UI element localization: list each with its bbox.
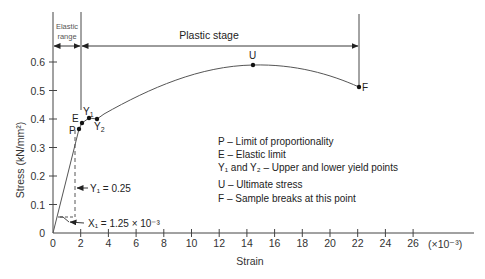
svg-text:6: 6 — [133, 237, 139, 249]
x-tick-labels: 0 2 4 6 8 10 12 14 16 18 20 22 24 26 — [50, 237, 419, 249]
legend: P – Limit of proportionality E – Elastic… — [218, 136, 398, 204]
legend-item-e: E – Elastic limit — [218, 149, 286, 160]
point-f — [357, 85, 361, 89]
label-p: P — [69, 125, 76, 136]
x1-bracket — [58, 217, 69, 222]
svg-text:10: 10 — [186, 237, 198, 249]
x-unit-label: (×10⁻³) — [428, 238, 462, 250]
plastic-stage-label: Plastic stage — [179, 29, 239, 41]
legend-item-p: P – Limit of proportionality — [218, 136, 333, 147]
svg-text:22: 22 — [352, 237, 364, 249]
svg-text:0.1: 0.1 — [30, 199, 45, 211]
svg-text:2: 2 — [78, 237, 84, 249]
svg-text:20: 20 — [324, 237, 336, 249]
label-u: U — [249, 50, 256, 61]
svg-text:18: 18 — [296, 237, 308, 249]
svg-text:0.4: 0.4 — [30, 113, 45, 125]
svg-text:0: 0 — [50, 237, 56, 249]
stress-strain-curve — [53, 65, 359, 233]
stress-strain-chart: 0 0.1 0.2 0.3 0.4 0.5 0.6 0 2 4 6 8 10 1… — [0, 0, 485, 279]
y1-annotation: Y₁ = 0.25 — [90, 183, 131, 194]
x1-annotation-arrow — [70, 222, 84, 223]
svg-text:0.2: 0.2 — [30, 170, 45, 182]
x-axis-title: Strain — [236, 255, 264, 267]
svg-text:4: 4 — [105, 237, 111, 249]
svg-text:0.3: 0.3 — [30, 142, 45, 154]
svg-text:14: 14 — [241, 237, 253, 249]
svg-text:0.6: 0.6 — [30, 56, 45, 68]
svg-text:12: 12 — [213, 237, 225, 249]
legend-item-u: U – Ultimate stress — [218, 179, 302, 190]
legend-item-f: F – Sample breaks at this point — [218, 193, 356, 204]
x1-annotation: X₁ = 1.25 × 10⁻³ — [88, 218, 160, 229]
legend-item-y: Y₁ and Y₂ – Upper and lower yield points — [218, 162, 398, 173]
label-y1: Y1 — [83, 106, 94, 118]
svg-text:0.5: 0.5 — [30, 85, 45, 97]
label-f: F — [362, 82, 368, 93]
elastic-range-label-2: range — [57, 32, 76, 41]
point-u — [251, 63, 255, 67]
y-axis-title: Stress (kN/mm²) — [14, 122, 26, 198]
svg-text:16: 16 — [269, 237, 281, 249]
svg-text:0: 0 — [39, 227, 45, 239]
svg-text:8: 8 — [161, 237, 167, 249]
label-e: E — [72, 113, 79, 124]
elastic-range-label-1: Elastic — [56, 22, 78, 31]
y-tick-labels: 0 0.1 0.2 0.3 0.4 0.5 0.6 — [30, 56, 45, 239]
point-e — [80, 121, 84, 125]
svg-text:26: 26 — [407, 237, 419, 249]
point-p — [77, 127, 81, 131]
label-y2: Y2 — [94, 121, 105, 133]
svg-text:24: 24 — [380, 237, 392, 249]
